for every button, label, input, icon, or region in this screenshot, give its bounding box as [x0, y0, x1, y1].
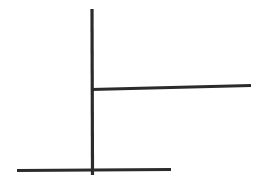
canvas-background — [0, 0, 264, 186]
vertical-line — [92, 9, 93, 175]
line-figure — [0, 0, 264, 186]
bottom-horizontal-line — [17, 170, 171, 171]
drawing-canvas — [0, 0, 264, 186]
